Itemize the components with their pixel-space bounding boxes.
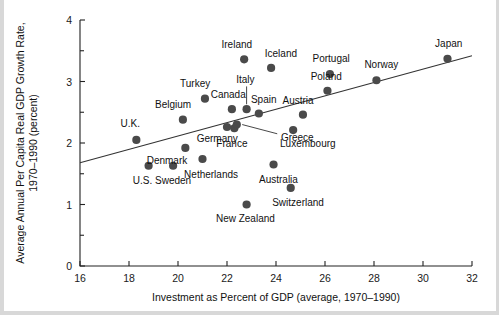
y-tick-label: 4 (66, 14, 72, 26)
data-point-label: U.K. (120, 118, 139, 129)
data-point (223, 123, 231, 131)
data-point-label: New Zealand (216, 213, 275, 224)
x-tick-label: 18 (123, 272, 135, 284)
data-point (181, 144, 189, 152)
data-point (233, 120, 241, 128)
data-point (132, 136, 140, 144)
chart-figure: U.S.U.K.DenmarkSwedenNetherlandsBelgiumT… (0, 0, 499, 315)
x-tick-label: 16 (74, 272, 86, 284)
x-axis-title: Investment as Percent of GDP (average, 1… (152, 291, 400, 303)
data-point-label: Denmark (147, 155, 189, 166)
x-tick-label: 22 (221, 272, 233, 284)
data-point (243, 105, 251, 113)
data-point (179, 116, 187, 124)
data-point (372, 76, 380, 84)
data-point-label: Turkey (180, 78, 210, 89)
data-point-label: Ireland (222, 39, 253, 50)
data-point (243, 200, 251, 208)
data-point (269, 160, 277, 168)
x-tick-label: 32 (466, 272, 478, 284)
data-point-label: Netherlands (184, 169, 238, 180)
x-tick-label: 28 (368, 272, 380, 284)
data-point (228, 105, 236, 113)
data-point (299, 111, 307, 119)
data-point-labels: U.S.U.K.DenmarkSwedenNetherlandsBelgiumT… (120, 38, 462, 224)
data-point-label: Italy (236, 74, 254, 85)
data-point-label: Poland (311, 71, 342, 82)
y-tick-label: 1 (66, 199, 72, 211)
y-tick-label: 3 (66, 76, 72, 88)
data-point-label: France (216, 138, 248, 149)
scatter-plot: U.S.U.K.DenmarkSwedenNetherlandsBelgiumT… (0, 0, 499, 315)
data-point (198, 155, 206, 163)
x-tick-label: 30 (417, 272, 429, 284)
data-point-label: Norway (364, 59, 398, 70)
trend-line (80, 56, 472, 163)
y-tick-label: 0 (66, 260, 72, 272)
data-point-label: Australia (259, 174, 298, 185)
x-tick-label: 26 (319, 272, 331, 284)
data-point (287, 184, 295, 192)
data-point-label: Iceland (265, 48, 297, 59)
x-tick-label: 24 (270, 272, 282, 284)
data-point-label: Canada (211, 89, 246, 100)
data-point-label: Austria (282, 95, 314, 106)
data-point (323, 87, 331, 95)
data-point-label: Japan (435, 38, 462, 49)
data-point-label: Switzerland (272, 197, 324, 208)
data-point-label: Spain (251, 94, 277, 105)
data-point (443, 55, 451, 63)
data-point-label: Portugal (313, 53, 350, 64)
y-axis-title-line: 1970–1990 (percent) (27, 94, 39, 192)
data-point (255, 109, 263, 117)
y-axis-title-line: Average Annual Per Capita Real GDP Growt… (14, 22, 26, 263)
x-tick-label: 20 (172, 272, 184, 284)
data-point (201, 95, 209, 103)
data-point (267, 64, 275, 72)
data-point-label: U.S. (133, 175, 152, 186)
data-point (240, 55, 248, 63)
data-point-label: Luxembourg (280, 138, 336, 149)
y-tick-label: 2 (66, 137, 72, 149)
data-point-label: Belgium (155, 99, 191, 110)
